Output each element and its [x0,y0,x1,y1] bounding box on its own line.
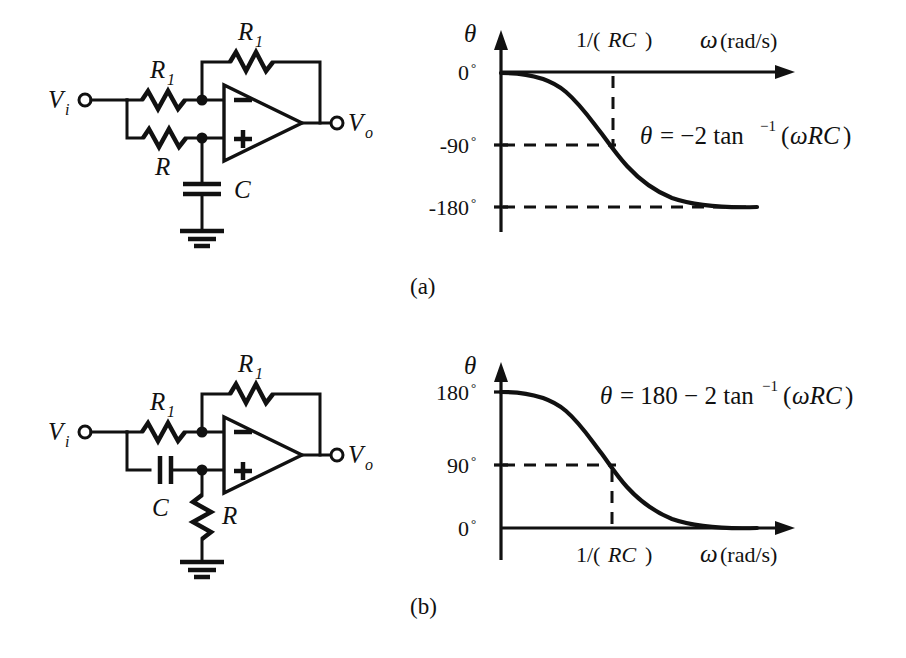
plot-a-xlabel: ω (rad/s) [700,26,777,53]
plot-a-yaxis-arrow [494,30,508,50]
input-terminal-b [79,426,91,438]
svg-text:1/(: 1/( [576,27,600,52]
series-resistor-label-b: R [149,388,165,415]
plot-b-ytick-label-0: 0 [458,516,469,541]
series-resistor-b [142,423,185,441]
circuit-b [79,384,343,577]
svg-text:(: ( [781,122,789,150]
input-branch-wire-b [127,432,150,470]
plot-b-yaxis-arrow [494,362,508,382]
feedback-resistor-b [230,384,273,403]
output-label-a: V [348,109,366,136]
input-terminal-a [79,94,91,106]
svg-text:RC: RC [607,27,636,52]
plot-b-ylabel: θ [464,352,476,379]
input-label-sub-b: i [65,433,69,450]
plot-a-equation: θ = −2 tan −1 ( ωRC ) [640,118,851,150]
svg-text:−1: −1 [760,118,776,134]
figure-page: V i V o R 1 R C R 1 [0,0,906,658]
plot-b-xlabel: ω (rad/s) [700,540,777,567]
svg-text:(rad/s): (rad/s) [720,542,777,567]
output-terminal-b [331,449,343,461]
output-label-b: V [348,441,366,468]
series-resistor-label-a: R [149,56,165,83]
rc-capacitor-label-b: C [152,494,169,521]
panel-caption-a: (a) [410,274,436,299]
output-label-sub-b: o [365,456,373,473]
plot-b-ytick-label-90-deg: ° [471,453,476,468]
plot-b-ytick-label-180: 180 [436,380,469,405]
plot-b-ytick-label-90: 90 [447,453,469,478]
feedback-resistor-label-a: R [237,18,253,45]
plot-a-corner-label: 1/( RC ) [576,27,652,52]
svg-text:ωRC: ωRC [792,382,842,409]
svg-text:ω: ω [700,26,718,53]
svg-text:): ) [645,542,652,567]
output-label-sub-a: o [365,124,373,141]
svg-text:(: ( [783,382,791,410]
opamp-b [224,417,302,493]
rc-resistor-label-a: R [154,153,170,180]
plot-a-ytick-label-0-deg: ° [471,60,476,75]
input-label-b: V [48,418,66,445]
plot-b-xaxis-arrow [775,521,795,535]
feedback-resistor-label-b: R [237,350,253,377]
svg-text:ωRC: ωRC [790,122,840,149]
series-resistor-label-sub-b: 1 [167,403,175,420]
plot-b-curve [501,392,757,528]
feedback-resistor-label-sub-a: 1 [255,33,263,50]
svg-text:−1: −1 [762,378,778,394]
plot-a-ytick-label-180: -180 [429,195,469,220]
input-label-a: V [48,86,66,113]
plot-a-ytick-label-90-deg: ° [471,133,476,148]
series-resistor-a [142,91,185,109]
plot-b-ytick-label-180-deg: ° [471,380,476,395]
feedback-resistor-label-sub-b: 1 [255,365,263,382]
figure-canvas: V i V o R 1 R C R 1 [0,0,906,658]
plot-b-equation: θ = 180 − 2 tan −1 ( ωRC ) [600,378,853,410]
series-resistor-label-sub-a: 1 [167,71,175,88]
plot-a-xaxis-arrow [775,65,795,79]
input-branch-wire-a [127,100,143,138]
svg-text:ω: ω [700,540,718,567]
circuit-a [79,52,343,246]
svg-text:): ) [843,122,851,150]
plot-a-ytick-label-180-deg: ° [471,195,476,210]
rc-resistor-a [143,129,186,147]
plot-b-corner-label: 1/( RC ) [576,542,652,567]
output-terminal-a [331,117,343,129]
svg-text:θ: θ [600,382,612,409]
rc-capacitor-label-a: C [234,176,251,203]
svg-text:θ: θ [640,122,652,149]
opamp-a [224,85,302,161]
svg-text:): ) [845,382,853,410]
svg-text:= −2 tan: = −2 tan [660,122,744,149]
shunt-resistor-b [193,495,211,539]
svg-text:): ) [645,27,652,52]
svg-text:RC: RC [607,542,636,567]
svg-text:1/(: 1/( [576,542,600,567]
shunt-resistor-label-b: R [221,502,237,529]
plot-a-ytick-label-0: 0 [458,60,469,85]
feedback-resistor-a [230,52,273,71]
svg-text:(rad/s): (rad/s) [720,28,777,53]
plot-b-ytick-label-0-deg: ° [471,516,476,531]
plot-a-ytick-label-90: -90 [440,133,469,158]
plot-a-ylabel: θ [464,20,476,47]
svg-text:= 180 − 2 tan: = 180 − 2 tan [620,382,754,409]
panel-caption-b: (b) [410,594,437,619]
input-label-sub-a: i [65,101,69,118]
